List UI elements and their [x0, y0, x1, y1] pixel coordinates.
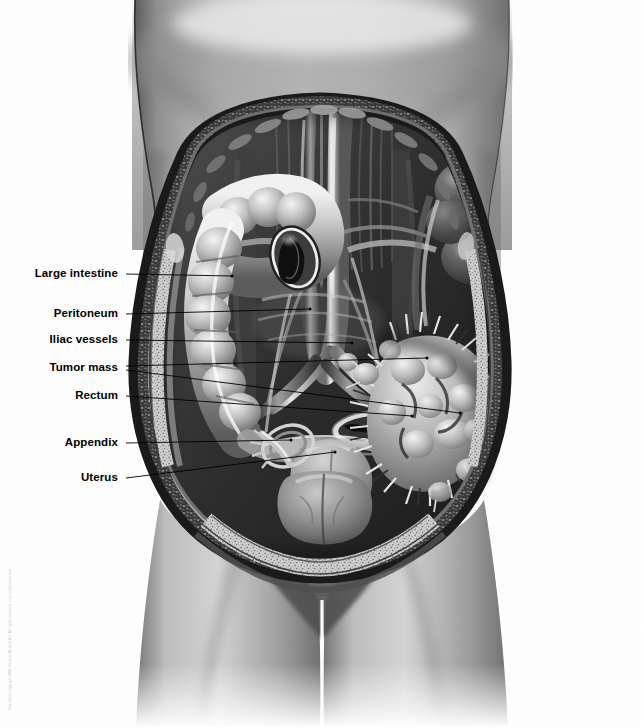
leader-endpoint-tumor-mass [459, 412, 462, 415]
leader-endpoint-peritoneum [309, 308, 312, 311]
illustration-canvas: Large intestinePeritoneumIliac vesselsTu… [0, 0, 641, 727]
leader-endpoint-tumor-mass [426, 357, 429, 360]
leader-endpoint-appendix [290, 439, 293, 442]
leader-endpoint-uterus [334, 451, 337, 454]
anatomy-illustration [0, 0, 641, 727]
copyright-credit: Illustration copyright 2001 Nucleus Medi… [8, 510, 12, 710]
leader-endpoint-large-intestine [231, 275, 234, 278]
abdominal-cavity [0, 0, 641, 727]
leader-endpoint-iliac-vessels [351, 342, 354, 345]
film-grain [0, 0, 641, 727]
leader-endpoint-rectum [411, 415, 414, 418]
